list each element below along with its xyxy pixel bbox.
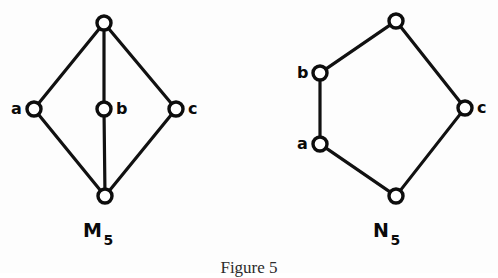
- graph-node-n5-c: [458, 101, 472, 115]
- graph-node-m5-b: [97, 102, 111, 116]
- graph-edge-n5-c-top: [400, 26, 461, 103]
- graph-edge-m5-a-bottom: [38, 114, 101, 191]
- graph-name-n5-subscript: 5: [390, 232, 400, 248]
- graph-name-m5: M5: [83, 219, 113, 245]
- graph-edge-n5-a-bottom: [325, 148, 390, 193]
- graph-name-n5-letter: N: [373, 219, 389, 241]
- graph-edge-n5-top-b: [325, 25, 390, 70]
- graph-name-m5-letter: M: [83, 219, 102, 241]
- graph-name-n5: N5: [373, 219, 400, 245]
- graph-node-m5-bottom: [98, 189, 112, 203]
- nodes-layer: [27, 14, 472, 203]
- graph-edge-m5-top-a: [38, 28, 100, 104]
- graph-edge-m5-b-bottom: [104, 115, 105, 189]
- graph-edge-m5-top-c: [108, 28, 172, 104]
- graph-node-m5-top: [97, 16, 111, 30]
- graph-node-n5-top: [389, 14, 403, 28]
- vertex-label-m5-b: b: [116, 101, 127, 117]
- graph-edge-n5-bottom-c: [400, 113, 461, 191]
- vertex-label-m5-a: a: [11, 101, 22, 117]
- graph-node-n5-bottom: [389, 189, 403, 203]
- vertex-label-n5-b: b: [297, 65, 308, 81]
- graph-node-m5-c: [169, 102, 183, 116]
- graph-node-m5-a: [27, 102, 41, 116]
- figure-caption: Figure 5: [0, 258, 498, 278]
- graph-name-m5-subscript: 5: [103, 232, 113, 248]
- vertex-label-n5-a: a: [297, 136, 308, 152]
- graph-node-n5-a: [313, 137, 327, 151]
- graph-edge-m5-c-bottom: [109, 114, 172, 191]
- vertex-label-n5-c: c: [477, 100, 486, 116]
- graph-node-n5-b: [313, 66, 327, 80]
- vertex-label-m5-c: c: [188, 101, 197, 117]
